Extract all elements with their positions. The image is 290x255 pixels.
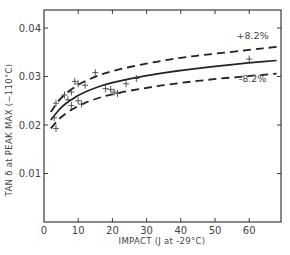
- plus-marker-icon: [103, 85, 109, 92]
- plot-border: [44, 10, 281, 222]
- plus-marker-icon: [246, 56, 252, 63]
- y-axis-title: TAN δ at PEAK MAX (−110°C): [4, 64, 14, 198]
- annotations: +8.2%-8.2%: [237, 30, 269, 85]
- y-tick-label: 0.03: [19, 71, 41, 82]
- x-tick-label: 40: [174, 225, 187, 236]
- y-tick-label: 0.01: [19, 168, 41, 179]
- x-tick-label: 0: [41, 225, 47, 236]
- plus-marker-icon: [123, 80, 129, 87]
- plus-marker-icon: [75, 97, 81, 104]
- x-axis: 0102030405060: [41, 10, 256, 236]
- y-tick-label: 0.02: [19, 120, 41, 131]
- chart: 0.010.020.030.04 0102030405060 +8.2%-8.2…: [0, 0, 290, 255]
- x-axis-title: IMPACT (J at -29°C): [119, 236, 206, 246]
- plus-marker-icon: [79, 101, 85, 108]
- upper-band-label: +8.2%: [237, 30, 269, 41]
- plus-marker-icon: [68, 89, 74, 96]
- x-tick-label: 60: [243, 225, 256, 236]
- x-tick-label: 20: [106, 225, 119, 236]
- fit-curve: [51, 61, 277, 121]
- x-tick-label: 50: [209, 225, 222, 236]
- plus-marker-icon: [92, 69, 98, 76]
- plus-marker-icon: [51, 114, 57, 121]
- y-tick-label: 0.04: [19, 23, 41, 34]
- x-tick-label: 30: [140, 225, 153, 236]
- plus-marker-icon: [65, 96, 71, 103]
- x-tick-label: 10: [72, 225, 85, 236]
- lower-band-label: -8.2%: [239, 73, 267, 84]
- plot-frame: [44, 10, 281, 222]
- plus-marker-icon: [133, 75, 139, 82]
- plus-marker-icon: [115, 90, 121, 97]
